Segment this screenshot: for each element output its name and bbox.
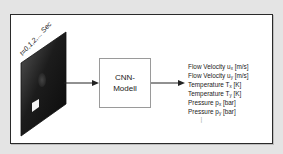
cnn-label-line2: Modell <box>113 83 137 94</box>
arrowhead-output <box>178 80 185 86</box>
output-ellipsis: ... <box>201 117 205 123</box>
cnn-label-line1: CNN- <box>113 72 137 83</box>
output-item: Flow Velocity uy [m/s] <box>188 72 249 81</box>
output-list: Flow Velocity ux [m/s] Flow Velocity uy … <box>188 63 249 118</box>
output-item: Flow Velocity ux [m/s] <box>188 63 249 72</box>
arrowhead-input <box>92 80 99 86</box>
image-blob <box>38 73 46 87</box>
cnn-model-box: CNN- Modell <box>99 58 151 108</box>
output-item: Pressure px [bar] <box>188 99 249 108</box>
output-item: Pressure py [bar] <box>188 108 249 117</box>
output-item: Temperature Tx [K] <box>188 81 249 90</box>
output-item: Temperature Ty [K] <box>188 90 249 99</box>
